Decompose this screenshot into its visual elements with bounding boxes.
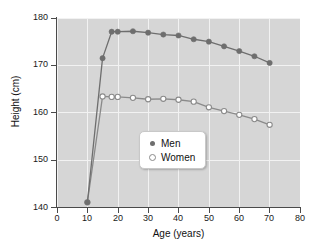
data-point (176, 97, 181, 102)
data-point (115, 29, 120, 34)
data-series-layer (57, 18, 300, 207)
x-axis-tick-label: 10 (75, 214, 99, 223)
y-axis-line (56, 17, 57, 208)
height-vs-age-chart: 180 170 160 150 140 0 10 20 30 40 50 60 … (0, 0, 321, 245)
data-point (191, 99, 196, 104)
x-axis-label: Age (years) (57, 228, 300, 239)
open-circle-icon (146, 154, 158, 161)
x-axis-tick-label: 30 (136, 214, 160, 223)
data-point (109, 94, 114, 99)
y-axis-tick-label: 160 (20, 108, 48, 117)
data-point (161, 32, 166, 37)
x-axis-tick-label: 0 (45, 214, 69, 223)
data-point (161, 96, 166, 101)
data-point (237, 112, 242, 117)
x-axis-tick-label: 80 (288, 214, 312, 223)
y-axis-label: Height (cm) (10, 52, 21, 152)
legend: Men Women (139, 131, 206, 169)
data-point (267, 122, 272, 127)
data-point (115, 94, 120, 99)
data-point (267, 60, 272, 65)
y-axis-tick-label: 150 (20, 155, 48, 164)
y-axis-tick (51, 207, 56, 208)
filled-circle-icon (146, 141, 158, 146)
x-axis-tick-label: 70 (257, 214, 281, 223)
data-point (237, 48, 242, 53)
legend-item-men[interactable]: Men (146, 136, 195, 150)
data-point (176, 33, 181, 38)
data-point (130, 95, 135, 100)
data-point (191, 37, 196, 42)
data-point (252, 54, 257, 59)
x-axis-tick-label: 20 (106, 214, 130, 223)
y-axis-tick (51, 65, 56, 66)
legend-label-men: Men (161, 138, 180, 149)
x-axis-tick-label: 40 (166, 214, 190, 223)
data-point (100, 94, 105, 99)
y-axis-tick-label: 140 (20, 203, 48, 212)
line-men (87, 31, 269, 202)
data-point (146, 30, 151, 35)
y-axis-tick-label: 180 (20, 13, 48, 22)
y-axis-tick (51, 18, 56, 19)
data-point (100, 56, 105, 61)
data-point (109, 29, 114, 34)
data-point (206, 105, 211, 110)
x-axis-tick-label: 60 (227, 214, 251, 223)
data-point (221, 44, 226, 49)
y-axis-tick-label: 170 (20, 60, 48, 69)
data-point (85, 200, 90, 205)
data-point (130, 29, 135, 34)
legend-label-women: Women (161, 152, 195, 163)
data-point (221, 108, 226, 113)
x-axis-tick-label: 50 (197, 214, 221, 223)
y-axis-tick (51, 112, 56, 113)
legend-item-women[interactable]: Women (146, 150, 195, 164)
data-point (206, 39, 211, 44)
data-point (252, 117, 257, 122)
data-point (146, 97, 151, 102)
y-axis-tick (51, 160, 56, 161)
